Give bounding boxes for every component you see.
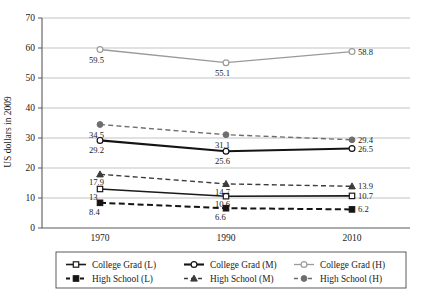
data-point-marker — [97, 122, 103, 128]
data-point-marker — [73, 262, 78, 267]
data-point-marker — [301, 276, 307, 282]
data-point-marker — [223, 132, 229, 138]
legend-item-high-school-l[interactable]: High School (L) — [66, 274, 153, 285]
legend-item-college-grad-l[interactable]: College Grad (L) — [66, 260, 156, 271]
point-value-label: 14.7 — [215, 187, 231, 197]
legend-label: College Grad (H) — [320, 260, 385, 271]
data-point-marker — [223, 60, 229, 66]
y-axis-title: US dollars in 2009 — [3, 96, 13, 168]
point-value-label: 10.6 — [215, 199, 231, 209]
data-point-marker — [73, 276, 79, 282]
series-college-grad-h — [97, 47, 355, 66]
y-tick-label: 0 — [30, 223, 35, 233]
point-value-label: 59.5 — [89, 55, 104, 65]
grid-lines — [42, 18, 410, 198]
legend-label: College Grad (M) — [210, 260, 277, 271]
data-point-marker — [349, 207, 355, 213]
x-axis: 197019902010 — [42, 228, 410, 243]
y-tick-label: 40 — [26, 103, 36, 113]
x-tick-label: 2010 — [343, 233, 362, 243]
data-point-marker — [97, 200, 103, 206]
legend-label: High School (H) — [320, 274, 382, 285]
point-value-label: 17.9 — [89, 177, 104, 187]
line-chart: 010203040506070 197019902010 US dollars … — [0, 0, 421, 295]
chart-container: 010203040506070 197019902010 US dollars … — [0, 0, 421, 295]
point-value-label: 13 — [89, 192, 98, 202]
y-tick-label: 30 — [26, 133, 36, 143]
y-tick-label: 70 — [26, 13, 36, 23]
y-tick-label: 10 — [26, 193, 36, 203]
x-tick-label: 1990 — [217, 233, 236, 243]
point-value-label: 10.7 — [358, 191, 374, 201]
y-axis: 010203040506070 — [26, 13, 43, 233]
point-value-label: 34.5 — [89, 130, 104, 140]
point-value-label: 29.2 — [89, 145, 104, 155]
data-point-marker — [349, 49, 355, 55]
legend-label: High School (L) — [92, 274, 153, 285]
point-value-label: 6.6 — [215, 212, 226, 222]
x-tick-label: 1970 — [91, 233, 110, 243]
point-value-label: 13.9 — [358, 181, 373, 191]
legend-item-high-school-h[interactable]: High School (H) — [294, 274, 382, 285]
legend: College Grad (L)College Grad (M)College … — [56, 252, 406, 288]
legend-label: College Grad (L) — [92, 260, 156, 271]
y-tick-label: 20 — [26, 163, 36, 173]
point-value-label: 31.1 — [215, 140, 230, 150]
legend-item-college-grad-m[interactable]: College Grad (M) — [184, 260, 277, 271]
y-tick-label: 50 — [26, 73, 36, 83]
point-value-label: 26.5 — [358, 144, 373, 154]
point-value-label: 8.4 — [89, 207, 100, 217]
data-point-marker — [349, 146, 355, 152]
data-point-marker — [97, 47, 103, 53]
point-value-label: 25.6 — [215, 156, 231, 166]
point-value-label: 55.1 — [215, 68, 230, 78]
point-value-label: 29.4 — [358, 135, 374, 145]
data-point-marker — [191, 262, 197, 268]
data-point-marker — [349, 137, 355, 143]
point-value-label: 6.2 — [358, 204, 369, 214]
point-value-label: 58.8 — [358, 47, 373, 57]
y-tick-label: 60 — [26, 43, 36, 53]
legend-label: High School (M) — [210, 274, 274, 285]
legend-item-high-school-m[interactable]: High School (M) — [184, 274, 274, 285]
data-point-marker — [301, 262, 307, 268]
data-point-marker — [349, 193, 354, 198]
legend-item-college-grad-h[interactable]: College Grad (H) — [294, 260, 385, 271]
